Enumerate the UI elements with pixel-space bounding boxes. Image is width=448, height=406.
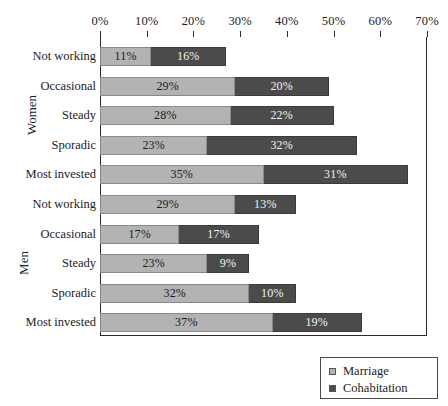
bar-segment-marriage: 23% (100, 254, 207, 273)
bar-row: 29%20% (100, 77, 329, 96)
x-axis-tick-labels: 0%10%20%30%40%50%60%70% (0, 14, 448, 32)
y-axis-category-label: Occasional (40, 77, 96, 96)
y-axis-category-label: Sporadic (52, 284, 96, 303)
bar-segment-marriage: 17% (100, 225, 179, 244)
y-axis-category-label: Steady (62, 106, 96, 125)
x-axis-tick-label: 30% (228, 14, 252, 29)
x-axis-tick-label: 0% (91, 14, 108, 29)
y-axis-category-label: Most invested (26, 313, 96, 332)
bar-row: 23%9% (100, 254, 249, 273)
y-axis-category-label: Sporadic (52, 136, 96, 155)
bar-row: 28%22% (100, 106, 334, 125)
x-axis-tick-label: 20% (182, 14, 206, 29)
bar-segment-cohabitation: 22% (231, 106, 334, 125)
bar-row: 11%16% (100, 47, 226, 66)
x-axis-tick-label: 50% (322, 14, 346, 29)
bar-segment-cohabitation: 10% (249, 284, 296, 303)
bar-segment-marriage: 37% (100, 313, 273, 332)
bar-segment-marriage: 23% (100, 136, 207, 155)
bar-segment-marriage: 28% (100, 106, 231, 125)
bar-row: 37%19% (100, 313, 362, 332)
group-label-text: Women (24, 95, 40, 135)
x-axis-tick-mark (427, 31, 428, 37)
x-axis-tick-label: 60% (369, 14, 393, 29)
bar-row: 32%10% (100, 284, 296, 303)
bar-segment-cohabitation: 9% (207, 254, 249, 273)
x-axis-tick-label: 40% (275, 14, 299, 29)
bar-segment-cohabitation: 16% (151, 47, 226, 66)
bar-segment-cohabitation: 32% (207, 136, 356, 155)
legend-item[interactable]: Marriage (329, 363, 437, 379)
bar-row: 29%13% (100, 195, 296, 214)
y-axis-category-labels: Not workingOccasionalSteadySporadicMost … (0, 37, 100, 336)
bars-layer: 11%16%29%20%28%22%23%32%35%31%29%13%17%1… (100, 37, 427, 336)
legend-label: Cohabitation (343, 382, 408, 395)
bar-segment-cohabitation: 20% (235, 77, 328, 96)
y-axis-category-label: Occasional (40, 225, 96, 244)
bar-segment-marriage: 29% (100, 195, 235, 214)
y-axis-category-label: Steady (62, 254, 96, 273)
bar-segment-marriage: 35% (100, 165, 264, 184)
y-axis-category-label: Not working (32, 195, 96, 214)
legend-label: Marriage (343, 365, 389, 378)
group-label: Men (12, 255, 36, 271)
group-label: Women (12, 107, 52, 123)
bar-segment-cohabitation: 19% (273, 313, 362, 332)
group-label-text: Men (16, 251, 32, 275)
stacked-bar-chart: 0%10%20%30%40%50%60%70% Not workingOccas… (0, 0, 448, 406)
bar-segment-marriage: 32% (100, 284, 249, 303)
chart-legend: MarriageCohabitation (320, 357, 438, 399)
bar-segment-cohabitation: 13% (235, 195, 296, 214)
bar-row: 17%17% (100, 225, 259, 244)
legend-swatch-icon (329, 385, 336, 392)
y-axis-category-label: Not working (32, 47, 96, 66)
y-axis-category-label: Most invested (26, 165, 96, 184)
legend-item[interactable]: Cohabitation (329, 380, 437, 396)
bar-segment-cohabitation: 31% (264, 165, 409, 184)
bar-row: 35%31% (100, 165, 408, 184)
x-axis-tick-label: 70% (415, 14, 439, 29)
x-axis-tick-label: 10% (135, 14, 159, 29)
legend-swatch-icon (329, 368, 336, 375)
bar-segment-marriage: 29% (100, 77, 235, 96)
bar-segment-marriage: 11% (100, 47, 151, 66)
bar-row: 23%32% (100, 136, 357, 155)
bar-segment-cohabitation: 17% (179, 225, 258, 244)
